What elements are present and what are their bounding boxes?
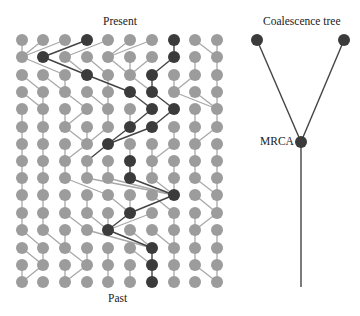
individual-node <box>81 51 93 63</box>
individual-node <box>168 172 180 184</box>
ancestor-node <box>124 121 136 133</box>
individual-node <box>81 259 93 271</box>
past-label: Past <box>108 292 127 304</box>
ancestor-node <box>146 242 158 254</box>
individual-node <box>59 207 71 219</box>
individual-node <box>168 207 180 219</box>
individual-node <box>81 86 93 98</box>
ancestor-node <box>146 69 158 81</box>
individual-node <box>168 276 180 288</box>
individual-node <box>189 259 201 271</box>
individual-node <box>16 189 28 201</box>
ancestor-node <box>37 51 49 63</box>
individual-node <box>124 138 136 150</box>
mrca-label: MRCA <box>260 135 294 147</box>
individual-node <box>16 34 28 46</box>
individual-node <box>146 155 158 167</box>
individual-node <box>81 242 93 254</box>
individual-node <box>102 86 114 98</box>
individual-node <box>37 34 49 46</box>
lineage-edge <box>87 230 152 248</box>
individual-node <box>168 259 180 271</box>
individual-node <box>37 276 49 288</box>
individual-node <box>124 103 136 115</box>
individual-node <box>102 103 114 115</box>
population-grid <box>16 34 223 288</box>
tree-title: Coalescence tree <box>263 15 341 27</box>
individual-node <box>146 207 158 219</box>
individual-node <box>211 172 223 184</box>
individual-node <box>124 69 136 81</box>
individual-node <box>211 224 223 236</box>
individual-node <box>59 259 71 271</box>
ancestor-node <box>81 34 93 46</box>
individual-node <box>102 207 114 219</box>
individual-node <box>124 224 136 236</box>
individual-node <box>146 138 158 150</box>
individual-node <box>146 34 158 46</box>
individual-node <box>211 86 223 98</box>
individual-node <box>168 121 180 133</box>
individual-node <box>16 172 28 184</box>
individual-node <box>189 103 201 115</box>
individual-node <box>16 276 28 288</box>
individual-node <box>211 207 223 219</box>
individual-node <box>124 242 136 254</box>
individual-node <box>102 189 114 201</box>
individual-node <box>146 172 158 184</box>
individual-node <box>102 155 114 167</box>
individual-node <box>16 103 28 115</box>
individual-node <box>59 121 71 133</box>
individual-node <box>211 138 223 150</box>
individual-node <box>16 224 28 236</box>
individual-node <box>37 242 49 254</box>
individual-node <box>16 242 28 254</box>
individual-node <box>59 276 71 288</box>
individual-node <box>189 51 201 63</box>
individual-node <box>189 242 201 254</box>
individual-node <box>81 207 93 219</box>
individual-node <box>211 242 223 254</box>
individual-node <box>59 224 71 236</box>
ancestor-node <box>124 207 136 219</box>
individual-node <box>211 189 223 201</box>
individual-node <box>211 121 223 133</box>
individual-node <box>59 138 71 150</box>
individual-node <box>16 51 28 63</box>
individual-node <box>59 69 71 81</box>
individual-node <box>37 189 49 201</box>
individual-node <box>189 207 201 219</box>
individual-node <box>102 259 114 271</box>
individual-node <box>81 138 93 150</box>
individual-node <box>59 155 71 167</box>
individual-node <box>37 155 49 167</box>
individual-node <box>189 189 201 201</box>
individual-node <box>16 259 28 271</box>
individual-node <box>16 121 28 133</box>
individual-node <box>168 138 180 150</box>
present-label: Present <box>103 15 137 27</box>
individual-node <box>211 51 223 63</box>
individual-node <box>102 242 114 254</box>
ancestor-node <box>168 103 180 115</box>
lineage-edge <box>108 178 174 195</box>
individual-node <box>211 259 223 271</box>
ancestor-node <box>102 224 114 236</box>
individual-node <box>189 121 201 133</box>
individual-node <box>59 103 71 115</box>
individual-node <box>102 121 114 133</box>
individual-node <box>124 276 136 288</box>
individual-node <box>16 138 28 150</box>
individual-node <box>59 34 71 46</box>
individual-node <box>102 34 114 46</box>
individual-node <box>81 172 93 184</box>
tree-branch-left <box>257 40 301 142</box>
individual-node <box>168 242 180 254</box>
coalescence-tree <box>251 34 350 287</box>
individual-node <box>81 155 93 167</box>
individual-node <box>37 103 49 115</box>
individual-node <box>124 34 136 46</box>
ancestor-node <box>124 155 136 167</box>
tree-leaf-left <box>251 34 263 46</box>
individual-node <box>124 259 136 271</box>
